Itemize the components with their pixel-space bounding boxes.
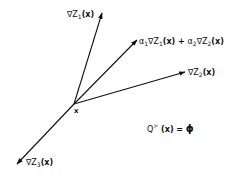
- combination-label: α1∇Z1(x) + α2∇Z2(x): [139, 38, 224, 47]
- origin-label: x: [74, 108, 79, 115]
- grad-z2-arrow: [74, 72, 185, 104]
- grad-z1-label: ∇Z1(x): [67, 11, 94, 20]
- grad-z3-arrow: [17, 104, 74, 164]
- vector-diagram: [0, 0, 237, 178]
- grad-z3-label: ∇Z3(x): [26, 159, 53, 168]
- grad-z2-label: ∇Z2(x): [188, 69, 215, 78]
- equation-label: Q> (x) = ϕ: [147, 123, 194, 134]
